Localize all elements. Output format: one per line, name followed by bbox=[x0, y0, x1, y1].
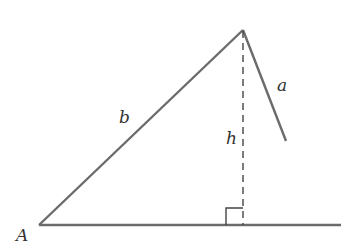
right-angle-marker bbox=[226, 208, 243, 225]
height-label: h bbox=[226, 128, 237, 148]
side-b-line bbox=[39, 30, 243, 225]
side-a-label: a bbox=[277, 75, 287, 95]
side-b-label: b bbox=[119, 107, 130, 127]
vertex-a-label: A bbox=[14, 225, 28, 245]
triangle-diagram: A b a h bbox=[0, 0, 358, 251]
